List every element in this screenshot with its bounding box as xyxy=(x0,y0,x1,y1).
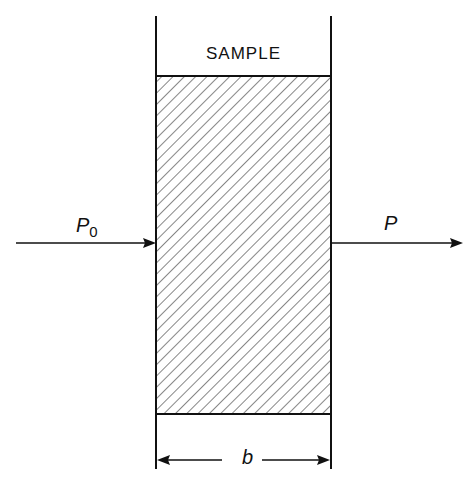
incident-power-label: P0 xyxy=(76,214,98,240)
sample-hatched-region xyxy=(156,76,331,414)
transmitted-arrow xyxy=(331,238,463,248)
incident-power-subscript: 0 xyxy=(89,223,97,240)
incident-power-symbol: P xyxy=(76,214,89,236)
thickness-label: b xyxy=(236,446,259,469)
sample-label: SAMPLE xyxy=(156,44,331,64)
sample-transmission-diagram xyxy=(0,0,474,481)
transmitted-power-label: P xyxy=(384,212,397,235)
